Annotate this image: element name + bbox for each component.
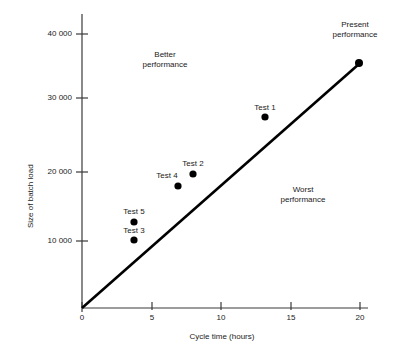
annotation-present-performance: Present performance (313, 20, 397, 40)
data-point-present-performance[interactable] (355, 59, 363, 67)
y-axis-title: Size of batch load (26, 164, 36, 228)
data-point-test-2[interactable] (189, 170, 196, 177)
point-label-test-1: Test 1 (244, 103, 286, 113)
point-label-test-5: Test 5 (113, 207, 155, 217)
annotation-better-performance-line2: performance (120, 60, 210, 70)
data-point-test-1[interactable] (261, 113, 268, 120)
x-tick-label-15: 15 (281, 313, 301, 323)
y-tick-label-10000: 10 000 (26, 236, 72, 246)
annotation-present-performance-line2: performance (313, 30, 397, 40)
data-point-test-5[interactable] (130, 218, 137, 225)
annotation-worst-performance-line1: Worst (258, 185, 348, 195)
point-label-test-2: Test 2 (172, 159, 214, 169)
annotation-better-performance-line1: Better (120, 50, 210, 60)
x-tick-label-10: 10 (211, 313, 231, 323)
x-tick-label-0: 0 (72, 313, 92, 323)
x-tick-label-20: 20 (350, 313, 370, 323)
annotation-better-performance: Better performance (120, 50, 210, 70)
x-axis-title: Cycle time (hours) (180, 332, 264, 342)
data-point-test-4[interactable] (174, 182, 181, 189)
x-tick-label-5: 5 (142, 313, 162, 323)
data-point-test-3[interactable] (130, 236, 137, 243)
annotation-worst-performance-line2: performance (258, 195, 348, 205)
annotation-present-performance-line1: Present (313, 20, 397, 30)
annotation-worst-performance: Worst performance (258, 185, 348, 205)
point-label-test-4: Test 4 (146, 171, 188, 181)
y-tick-label-30000: 30 000 (26, 93, 72, 103)
point-label-test-3: Test 3 (113, 226, 155, 236)
y-tick-label-40000: 40 000 (26, 29, 72, 39)
scatter-chart: 40 000 30 000 20 000 10 000 0 5 10 15 20… (0, 0, 402, 356)
